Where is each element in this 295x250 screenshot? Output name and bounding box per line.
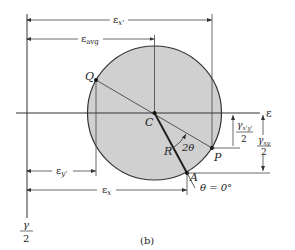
gamma-axis-label-den: 2 [23, 233, 29, 244]
point-a-label: A [189, 171, 198, 184]
gamma-xy-label-num: γxy [258, 135, 271, 147]
eps-avg-label: εavg [81, 33, 99, 46]
two-theta-label: 2θ [181, 142, 194, 153]
point-c [153, 111, 157, 115]
point-p-label: P [213, 151, 222, 164]
epsilon-axis-label: ε [266, 107, 272, 120]
gamma-xy-label-den: 2 [261, 147, 267, 157]
eps-y-prime-label: εy' [56, 165, 67, 178]
point-q [94, 78, 98, 82]
figure-caption: (b) [140, 235, 154, 246]
eps-x-label: εx [102, 184, 111, 197]
mohr-circle-strain-diagram: ε γ 2 C Q P A R 2θ θ = 0° εx' εavg εy' ε… [0, 0, 295, 250]
eps-x-prime-label: εx' [113, 14, 124, 27]
gamma-axis-label-num: γ [23, 219, 29, 230]
radius-label: R [163, 145, 172, 158]
theta-zero-label: θ = 0° [200, 182, 232, 193]
gamma-xy-prime-label-num: γx'y' [237, 120, 253, 132]
gamma-xy-prime-label-den: 2 [241, 134, 247, 144]
point-c-label: C [145, 116, 154, 129]
point-q-label: Q [85, 70, 94, 83]
